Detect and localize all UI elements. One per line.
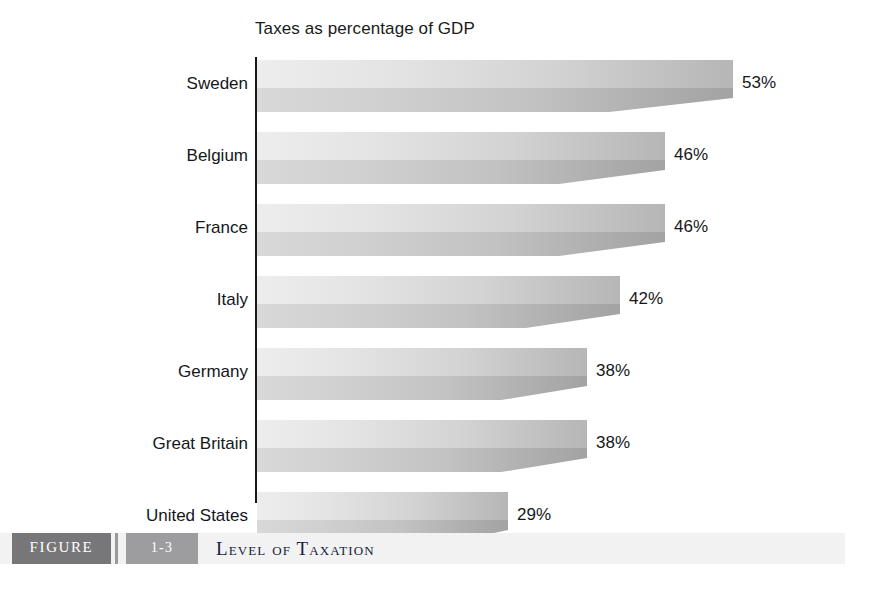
bar-value-label: 38% [596,433,630,453]
bar-front-face [257,88,733,112]
bar-row: Great Britain 38% [0,415,876,477]
bar-top-face [257,492,508,520]
bar-top-face [257,204,665,232]
bar-front-face [257,160,665,184]
bar-category-label: Sweden [187,74,248,94]
bar-front-face [257,304,620,328]
bar-top-face [257,420,587,448]
bar-front-face [257,232,665,256]
figure-word-badge: FIGURE [12,533,111,564]
figure-container: Taxes as percentage of GDP Sweden 53% Be… [0,0,876,592]
bar-graphic[interactable] [257,276,620,328]
bar-category-label: Germany [178,362,248,382]
chart-plot-area: Sweden 53% Belgium 46% France 46% [0,55,876,505]
bar-category-label: Italy [217,290,248,310]
bar-front-face [257,376,587,400]
figure-number-badge: 1-3 [126,533,198,564]
bar-category-label: France [195,218,248,238]
bar-front-face [257,448,587,472]
bar-graphic[interactable] [257,204,665,256]
bar-graphic[interactable] [257,132,665,184]
chart-title: Taxes as percentage of GDP [255,19,475,39]
bar-value-label: 38% [596,361,630,381]
bar-row: France 46% [0,199,876,261]
bar-graphic[interactable] [257,60,733,112]
bar-category-label: Great Britain [153,434,248,454]
figure-caption-strip: FIGURE 1-3 Level of Taxation [0,533,845,564]
bar-row: Sweden 53% [0,55,876,117]
caption-divider [115,533,118,564]
bar-graphic[interactable] [257,420,587,472]
bar-value-label: 46% [674,217,708,237]
bar-top-face [257,60,733,88]
bar-top-face [257,132,665,160]
bar-category-label: United States [146,506,248,526]
bar-value-label: 42% [629,289,663,309]
figure-caption-title: Level of Taxation [216,538,375,560]
bar-top-face [257,348,587,376]
figure-number-label: 1-3 [126,540,198,556]
bar-value-label: 29% [517,505,551,525]
bar-row: Belgium 46% [0,127,876,189]
bar-row: Germany 38% [0,343,876,405]
figure-word-label: FIGURE [12,539,111,556]
bar-category-label: Belgium [187,146,248,166]
bar-top-face [257,276,620,304]
bar-value-label: 46% [674,145,708,165]
bar-row: Italy 42% [0,271,876,333]
bar-graphic[interactable] [257,348,587,400]
bar-value-label: 53% [742,73,776,93]
